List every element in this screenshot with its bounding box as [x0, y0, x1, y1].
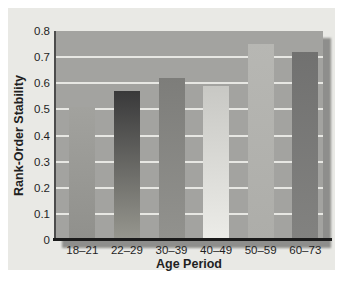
x-tick-label: 40–49	[193, 244, 239, 257]
x-tick-label: 22–29	[104, 244, 150, 257]
gridline	[55, 82, 323, 84]
x-tick-label: 50–59	[238, 244, 284, 257]
bar-18–21	[69, 107, 95, 240]
bar-50–59	[248, 44, 274, 240]
x-tick-label: 60–73	[282, 244, 328, 257]
x-tick-label: 30–39	[149, 244, 195, 257]
bar-22–29	[114, 91, 140, 240]
bar-40–49	[203, 86, 229, 240]
bar-30–39	[159, 78, 185, 240]
x-axis-line	[53, 238, 332, 241]
y-axis-line	[54, 31, 56, 240]
gridline	[55, 56, 323, 58]
y-axis-title: Rank-Order Stability	[12, 31, 27, 240]
bar-60–73	[292, 52, 318, 240]
chart-figure: 00.10.20.30.40.50.60.70.8 18–2122–2930–3…	[0, 0, 351, 285]
x-axis-title: Age Period	[89, 257, 289, 271]
plot-area	[55, 31, 323, 240]
x-tick-label: 18–21	[59, 244, 105, 257]
